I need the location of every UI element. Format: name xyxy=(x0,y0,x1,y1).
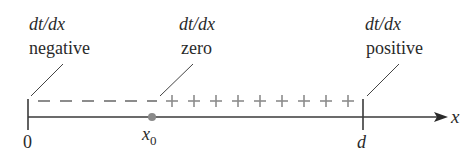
label-positive: dt/dx positive xyxy=(365,14,423,96)
leader-line-positive xyxy=(367,64,399,96)
number-line-diagram: dt/dx negative dt/dx zero dt/dx positive xyxy=(0,0,465,153)
leader-line-zero xyxy=(160,64,193,96)
plus-sign xyxy=(320,95,332,107)
plus-sign xyxy=(276,95,288,107)
derivative-label-positive: dt/dx xyxy=(365,14,401,34)
plus-sign xyxy=(232,95,244,107)
tick-label-d: d xyxy=(357,132,367,152)
plus-sign xyxy=(342,95,354,107)
axis-variable-label: x xyxy=(450,106,460,127)
derivative-label-zero: dt/dx xyxy=(179,14,215,34)
tick-label-zero: 0 xyxy=(23,132,32,152)
leader-line-negative xyxy=(31,64,63,96)
plus-sign xyxy=(254,95,266,107)
sign-word-positive: positive xyxy=(366,38,423,58)
plus-sign xyxy=(210,95,222,107)
plus-sign xyxy=(166,95,178,107)
label-negative: dt/dx negative xyxy=(29,14,90,96)
plus-sign xyxy=(188,95,200,107)
sign-word-negative: negative xyxy=(29,38,90,58)
point-label-x0: x0 xyxy=(141,124,157,148)
plus-sign xyxy=(298,95,310,107)
critical-point-marker xyxy=(148,113,156,121)
x-axis: x 0 d x0 xyxy=(23,99,460,152)
sign-word-zero: zero xyxy=(181,38,212,58)
plus-signs xyxy=(166,95,354,107)
derivative-label-negative: dt/dx xyxy=(29,14,65,34)
label-zero: dt/dx zero xyxy=(160,14,215,96)
